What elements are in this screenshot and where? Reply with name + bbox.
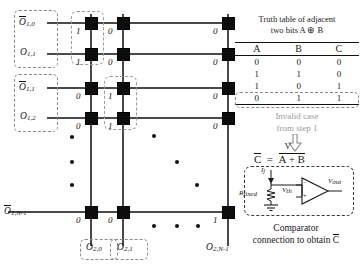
cell-node[interactable] <box>85 82 98 95</box>
caption-line2-var: C <box>333 234 339 245</box>
row-label-3-sub: 1,2 <box>27 114 36 122</box>
row-wire-2 <box>47 87 233 89</box>
cell-node[interactable] <box>117 206 130 219</box>
cell-node[interactable] <box>85 206 98 219</box>
row-label-2-text: O <box>19 81 26 92</box>
row-wire-3 <box>47 117 233 119</box>
row-label-1-sub: 1,1 <box>27 50 36 58</box>
cell-node[interactable] <box>222 48 235 61</box>
cell-value-r2c2: 0 <box>213 92 218 101</box>
comparator-circuit: Ij Rfixed Vth Vout − + <box>244 166 352 214</box>
cell-value-r3c1: 1 <box>108 122 113 131</box>
cell-node[interactable] <box>85 112 98 125</box>
resistor-label-sub: fixed <box>243 190 257 198</box>
row-label-4-sub: 1,N-1 <box>11 209 27 217</box>
invalid-case-line1: Invalid case <box>232 110 362 122</box>
cell-node[interactable] <box>117 48 130 61</box>
cell-value-r4c0: 0 <box>76 216 81 225</box>
ellipsis-dot-horizontal <box>152 224 156 228</box>
column-label-0-sub: 2,0 <box>93 245 102 253</box>
vin-label-sub: th <box>286 187 291 195</box>
column-label-2-sub: 2,N-1 <box>213 245 229 253</box>
ellipsis-dot-vertical <box>70 183 74 187</box>
row-label-2: O1,1 <box>19 81 35 93</box>
cell-value-r1c2: 0 <box>213 58 218 67</box>
cell-node[interactable] <box>222 206 235 219</box>
cell-value-r2c0: 0 <box>76 92 81 101</box>
row-label-4: O1,N-1 <box>4 205 27 217</box>
current-label-sub: j <box>263 167 265 175</box>
vout-label: Vout <box>328 177 341 186</box>
truth-cell-c: 0 <box>319 56 359 69</box>
cell-value-r0c1: 0 <box>108 27 113 36</box>
cell-value-r4c1: 0 <box>108 216 113 225</box>
column-label-1: O2,1 <box>117 242 133 253</box>
figure-caption: Comparator connection to obtain C <box>226 222 363 246</box>
row-label-1-text: O <box>20 47 27 57</box>
ellipsis-dot-vertical <box>70 135 74 139</box>
truth-cell-b: 0 <box>279 80 319 92</box>
invalid-case-note: Invalid case from step 1 <box>232 110 362 134</box>
invalid-row-highlight <box>235 92 359 108</box>
table-row: 1 1 0 <box>235 68 359 80</box>
ellipsis-dot-vertical <box>70 160 74 164</box>
equation-equals: = <box>264 153 276 165</box>
caption-line2: connection to obtain C <box>226 234 363 246</box>
invalid-case-line2: from step 1 <box>232 122 362 134</box>
truth-table-title-line1: Truth table of adjacent <box>232 14 362 25</box>
truth-cell-b: 1 <box>279 68 319 80</box>
ellipsis-dot-horizontal <box>175 224 179 228</box>
truth-cell-c: 0 <box>319 68 359 80</box>
cell-value-r4c2: 1 <box>213 216 218 225</box>
truth-cell-b: 0 <box>279 56 319 69</box>
truth-table-header-a: A <box>235 43 279 56</box>
or-symbol: V <box>285 141 292 151</box>
equation-expression: C = V A + B <box>254 152 305 165</box>
truth-table-header-row: A B C <box>235 43 359 56</box>
opamp-minus-sign: − <box>303 179 306 185</box>
caption-line2-pre: connection to obtain <box>253 235 333 245</box>
resistor-label: Rfixed <box>239 189 257 198</box>
cell-value-r1c0: 1 <box>76 58 81 67</box>
right-panel: Truth table of adjacent two bits A ⊕ B A… <box>238 0 357 276</box>
column-label-0-text: O <box>86 242 93 252</box>
vin-label: Vth <box>282 186 292 195</box>
ellipsis-dot-diagonal <box>175 160 179 164</box>
opamp-plus-sign: + <box>303 193 306 199</box>
ellipsis-dot-horizontal <box>196 224 200 228</box>
truth-cell-a: 0 <box>235 56 279 69</box>
truth-cell-a: 1 <box>235 68 279 80</box>
caption-line1: Comparator <box>226 222 363 234</box>
cell-value-r2c1: 1 <box>108 92 113 101</box>
column-label-2-text: O <box>206 242 213 252</box>
current-label: Ij <box>261 166 265 175</box>
cell-node[interactable] <box>222 82 235 95</box>
cell-value-r1c1: 0 <box>108 58 113 67</box>
row-label-1: O1,1 <box>20 47 36 58</box>
row-label-0-text: O <box>19 16 26 27</box>
ellipsis-dot-diagonal <box>152 134 156 138</box>
cell-node[interactable] <box>117 17 130 30</box>
truth-table-title-line2: two bits A ⊕ B <box>232 25 362 36</box>
column-label-1-sub: 2,1 <box>124 245 133 253</box>
truth-cell-a: 1 <box>235 80 279 92</box>
table-row: 0 0 0 <box>235 56 359 69</box>
cell-value-r0c2: 0 <box>213 27 218 36</box>
cell-value-r3c0: 0 <box>76 122 81 131</box>
truth-table-header-c: C <box>319 43 359 56</box>
row-label-2-sub: 1,1 <box>26 85 35 93</box>
row-label-0: O1,0 <box>19 16 35 28</box>
row-label-3: O1,2 <box>20 111 36 122</box>
cell-value-r0c0: 1 <box>76 27 81 36</box>
ellipsis-dot-diagonal <box>195 183 199 187</box>
row-label-3-text: O <box>20 111 27 121</box>
table-row: 1 0 1 <box>235 80 359 92</box>
truth-table-title: Truth table of adjacent two bits A ⊕ B <box>232 14 362 36</box>
column-label-0: O2,0 <box>86 242 102 253</box>
column-label-1-text: O <box>117 242 124 252</box>
truth-table-header-b: B <box>279 43 319 56</box>
cell-value-r3c2: 0 <box>213 122 218 131</box>
row-label-0-sub: 1,0 <box>26 20 35 28</box>
truth-cell-c: 1 <box>319 80 359 92</box>
